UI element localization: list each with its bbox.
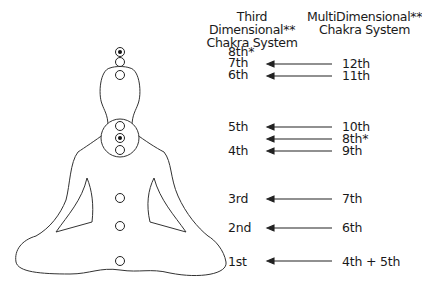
arrow-left-icon [267, 124, 332, 130]
multidimensional-header: MultiDimensional** Chakra System [307, 10, 422, 36]
chakra-1st-icon [116, 257, 125, 266]
multi-dim-label-6th: 6th [342, 221, 362, 234]
arrow-left-icon [267, 73, 332, 79]
chakra-7th-icon [116, 58, 125, 67]
third-dim-label-3rd: 3rd [228, 192, 248, 205]
third-dim-label-4th: 4th [228, 144, 248, 157]
multi-dim-label-4th-5th: 4th + 5th [342, 255, 400, 268]
chakra-5th-icon [116, 122, 125, 131]
left-arm-gap-icon [56, 178, 93, 232]
third-dim-label-6th: 6th [228, 68, 248, 81]
third-dim-label-2nd: 2nd [228, 221, 251, 234]
chakra-4th-icon [116, 146, 125, 155]
arrow-left-icon [267, 136, 332, 142]
multi-dim-label-9th: 9th [342, 144, 362, 157]
multi-dim-label-11th: 11th [342, 69, 370, 82]
multi-dim-label-7th: 7th [342, 192, 362, 205]
chakra-3rd-icon [116, 194, 125, 203]
chakra-8th-mid-dot-icon [118, 136, 122, 140]
mapping-arrows [267, 61, 332, 264]
chakra-2nd-icon [116, 222, 125, 231]
third-dim-label-1st: 1st [228, 255, 247, 268]
third-dim-label-5th: 5th [228, 120, 248, 133]
arrow-left-icon [267, 225, 332, 231]
header-left-line1: Third Dimensional** [200, 10, 304, 36]
arrow-left-icon [267, 258, 332, 264]
arrow-left-icon [267, 196, 332, 202]
right-arm-gap-icon [148, 178, 186, 232]
chakra-6th-icon [116, 71, 125, 80]
header-right-line2: Chakra System [307, 23, 422, 36]
arrow-left-icon [267, 61, 332, 67]
chakra-8th-top-dot-icon [118, 50, 122, 54]
arrow-left-icon [267, 148, 332, 154]
